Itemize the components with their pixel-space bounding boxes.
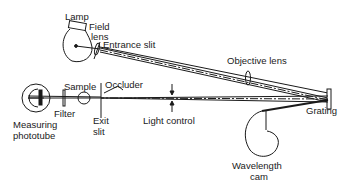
- phototube-label: phototube: [13, 131, 55, 141]
- filter-label: Filter: [54, 109, 75, 119]
- cam-label: cam: [250, 172, 268, 182]
- wavelength-label: Wavelength: [232, 161, 282, 171]
- slit-label: slit: [93, 127, 105, 137]
- grating-label: Grating: [306, 106, 337, 116]
- sample-label: Sample: [64, 82, 96, 92]
- light-control-label: Light control: [143, 116, 195, 126]
- occluder-label: Occluder: [105, 80, 143, 90]
- measuring-label: Measuring: [13, 120, 57, 130]
- field-lens-icon: [94, 42, 101, 59]
- objective-lens-label: Objective lens: [227, 56, 287, 66]
- lamp-icon: [63, 21, 92, 62]
- entrance-slit-label: Entrance slit: [103, 40, 155, 50]
- optical-diagram: [0, 0, 349, 186]
- lamp-label: Lamp: [65, 12, 89, 22]
- exit-label: Exit: [93, 116, 109, 126]
